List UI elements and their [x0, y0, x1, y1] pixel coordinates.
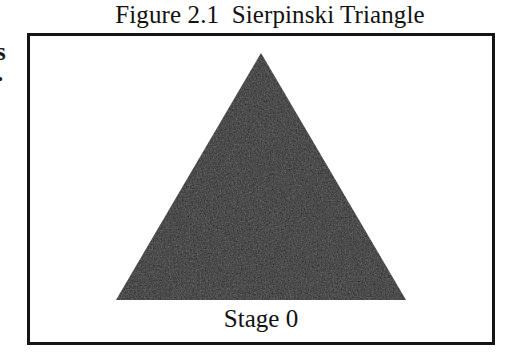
stage-label: Stage 0	[27, 303, 495, 335]
margin-text-fragment-letter: s	[0, 40, 13, 64]
figure-page: Figure 2.1 Sierpinski Triangle s . Stage…	[0, 0, 510, 362]
figure-frame	[27, 33, 495, 345]
figure-title: Figure 2.1 Sierpinski Triangle	[70, 0, 470, 31]
margin-text-fragment-mark: .	[0, 62, 12, 84]
